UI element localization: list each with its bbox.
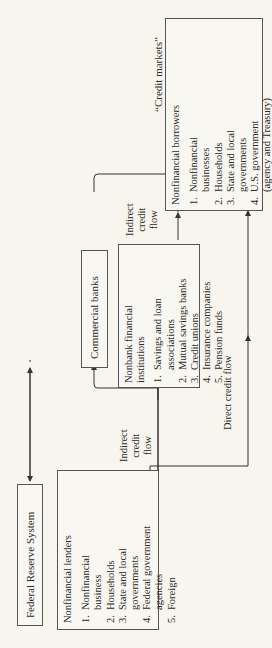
nonbank-item-1: 1.Savings and loan bbox=[152, 248, 164, 383]
borrower-item-4: 4.U.S. government bbox=[249, 25, 261, 205]
lenders-box: Nonfinancial lenders 1.Nonfinancial busi… bbox=[57, 470, 159, 630]
direct-flow-label: Direct credit flow bbox=[222, 355, 234, 430]
nonbank-item-2: 2.Mutual savings banks bbox=[177, 248, 189, 383]
borrower-item-2: 2.Households bbox=[213, 25, 225, 205]
borrower-item-3: 3.State and local bbox=[225, 25, 237, 205]
nonbank-item-3: 3.Credit unions bbox=[189, 248, 201, 383]
federal-reserve-box: Federal Reserve System bbox=[17, 484, 43, 626]
nonbank-item-4: 4.Insurance companies bbox=[201, 248, 213, 383]
federal-reserve-label: Federal Reserve System bbox=[24, 512, 36, 618]
commercial-banks-box: Commercial banks bbox=[81, 250, 108, 368]
lender-item-4: 4.Federal government bbox=[141, 473, 153, 623]
indirect-flow-lower-label: Indirect credit flow bbox=[118, 429, 155, 462]
lender-item-2: 2.Households bbox=[105, 473, 117, 623]
nonbank-title: Nonbank financial bbox=[123, 248, 135, 383]
lenders-title: Nonfinancial lenders bbox=[62, 473, 74, 623]
lenders-content: Nonfinancial lenders 1.Nonfinancial busi… bbox=[62, 473, 178, 623]
borrowers-box: Nonfinancial borrowers 1.Nonfinancial bu… bbox=[165, 18, 263, 211]
borrowers-content: Nonfinancial borrowers 1.Nonfinancial bu… bbox=[170, 25, 272, 205]
borrower-item-1: 1.Nonfinancial bbox=[188, 25, 200, 205]
borrowers-title: Nonfinancial borrowers bbox=[170, 25, 182, 205]
lender-item-5: 5.Foreign bbox=[166, 473, 178, 623]
indirect-flow-upper-label: Indirect credit flow bbox=[124, 203, 161, 236]
nonbank-content: Nonbank financial institutions 1.Savings… bbox=[123, 248, 226, 383]
nonbank-box: Nonbank financial institutions 1.Savings… bbox=[118, 244, 200, 388]
credit-markets-label: “Credit markets” bbox=[152, 37, 164, 112]
lender-item-1: 1.Nonfinancial bbox=[80, 473, 92, 623]
commercial-banks-label: Commercial banks bbox=[88, 276, 100, 359]
lender-item-3: 3.State and local bbox=[117, 473, 129, 623]
